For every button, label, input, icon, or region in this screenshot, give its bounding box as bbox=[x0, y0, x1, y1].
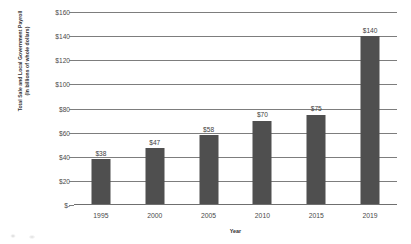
bar-value-label: $75 bbox=[311, 105, 322, 112]
bar-group: $75 bbox=[289, 12, 343, 205]
plot-area: $38$47$58$70$75$140 bbox=[74, 12, 397, 205]
bar-group: $58 bbox=[182, 12, 236, 205]
bar bbox=[199, 135, 218, 205]
y-axis-tick-mark bbox=[69, 205, 74, 206]
bar-group: $70 bbox=[236, 12, 290, 205]
y-axis-tick-label: $- bbox=[34, 202, 70, 209]
y-axis-tick-label: $100 bbox=[34, 81, 70, 88]
x-axis-tick-labels: 199520002005201020152019 bbox=[74, 212, 397, 226]
bar-value-label: $47 bbox=[149, 139, 160, 146]
bars-layer: $38$47$58$70$75$140 bbox=[74, 12, 397, 205]
bar bbox=[307, 115, 326, 205]
x-axis-tick-label: 1995 bbox=[93, 212, 108, 219]
y-axis-tick-label: $140 bbox=[34, 33, 70, 40]
y-axis-title-line-2: (In billions of whole dollars) bbox=[24, 0, 31, 141]
x-axis-tick-label: 2019 bbox=[363, 212, 378, 219]
y-axis-tick-label: $80 bbox=[34, 105, 70, 112]
x-axis-title: Year bbox=[74, 228, 397, 234]
y-axis-tick-label: $160 bbox=[34, 9, 70, 16]
scan-artifact bbox=[8, 232, 42, 241]
bar bbox=[91, 159, 110, 205]
bar bbox=[145, 148, 164, 205]
y-axis-tick-labels: $160$140$120$100$80$60$40$20$- bbox=[34, 0, 70, 244]
bar-value-label: $70 bbox=[257, 111, 268, 118]
y-axis-tick-label: $20 bbox=[34, 177, 70, 184]
y-axis-title-line-1: Total Sale and Local Government Payroll bbox=[17, 0, 24, 141]
bar bbox=[253, 121, 272, 205]
x-axis-tick-label: 2010 bbox=[255, 212, 270, 219]
x-axis-tick-label: 2015 bbox=[309, 212, 324, 219]
bar-value-label: $140 bbox=[363, 27, 378, 34]
x-axis-tick-label: 2000 bbox=[147, 212, 162, 219]
bar-value-label: $58 bbox=[203, 126, 214, 133]
y-axis-tick-label: $40 bbox=[34, 153, 70, 160]
bar-group: $38 bbox=[74, 12, 128, 205]
bar-group: $47 bbox=[128, 12, 182, 205]
y-axis-tick-label: $60 bbox=[34, 129, 70, 136]
x-axis-tick-label: 2005 bbox=[201, 212, 216, 219]
bar-value-label: $38 bbox=[95, 150, 106, 157]
x-axis-baseline bbox=[74, 204, 397, 205]
bar-group: $140 bbox=[343, 12, 397, 205]
bar bbox=[361, 36, 380, 205]
bar-chart-figure: Total Sale and Local Government Payroll … bbox=[0, 0, 411, 244]
y-axis-tick-label: $120 bbox=[34, 57, 70, 64]
